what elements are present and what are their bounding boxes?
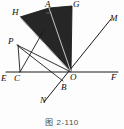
point-label-O: O xyxy=(70,73,77,82)
segment-CA xyxy=(20,30,44,72)
point-label-C: C xyxy=(14,74,20,83)
geometry-diagram xyxy=(0,0,124,129)
shaded-quadrilateral-HAGO xyxy=(20,6,72,72)
point-label-F: F xyxy=(111,73,117,82)
point-label-E: E xyxy=(1,74,7,83)
point-label-N: N xyxy=(40,96,46,105)
point-label-M: M xyxy=(110,14,118,23)
geometry-figure: H A G M P E C O F B N 图 2-110 xyxy=(0,0,124,129)
point-label-A: A xyxy=(45,0,51,9)
point-label-B: B xyxy=(61,83,67,92)
segment-PC xyxy=(18,45,20,72)
point-label-P: P xyxy=(8,37,14,46)
figure-caption: 图 2-110 xyxy=(0,118,124,126)
point-label-H: H xyxy=(12,8,19,17)
point-label-G: G xyxy=(73,0,80,9)
